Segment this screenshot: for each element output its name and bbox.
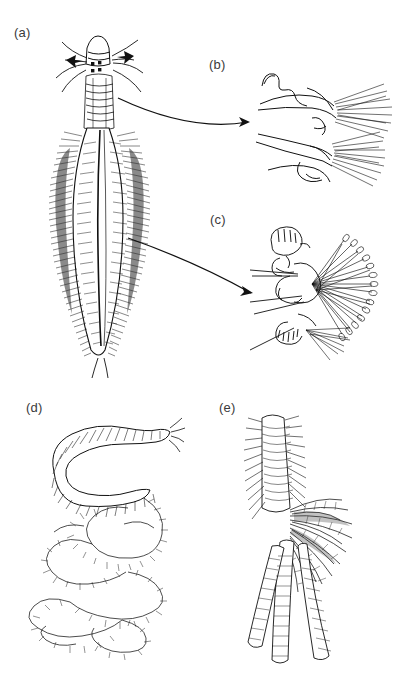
worm-d-bead-ticks bbox=[31, 499, 168, 660]
panel-label-c: (c) bbox=[210, 212, 226, 227]
arrow-a-to-b-line bbox=[118, 98, 248, 124]
figure-plate: (a) (b) (c) (d) (e) bbox=[0, 0, 407, 696]
arrow-a-to-c-line bbox=[128, 238, 251, 293]
panel-label-a: (a) bbox=[14, 25, 31, 40]
panel-b-illustration bbox=[252, 58, 402, 186]
panel-label-e: (e) bbox=[219, 400, 236, 415]
worm-d-beaded-coils bbox=[29, 498, 163, 652]
panel-label-b: (b) bbox=[209, 57, 226, 72]
arrow-a-to-b-head bbox=[239, 117, 250, 127]
panel-label-d: (d) bbox=[26, 400, 43, 415]
panel-e-illustration bbox=[228, 406, 398, 668]
panel-d-illustration bbox=[24, 406, 204, 656]
panel-c-illustration bbox=[250, 218, 407, 368]
